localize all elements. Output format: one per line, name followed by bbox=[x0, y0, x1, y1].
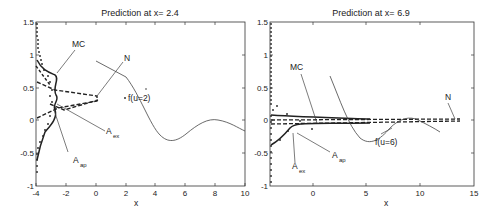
svg-text:A: A bbox=[332, 150, 338, 160]
svg-text:5: 5 bbox=[364, 189, 369, 198]
right-aap-label: A ap bbox=[332, 150, 346, 163]
left-n-label: N bbox=[124, 53, 130, 63]
svg-text:0: 0 bbox=[94, 189, 99, 198]
left-xlabel: x bbox=[134, 198, 139, 208]
svg-text:1: 1 bbox=[30, 51, 35, 60]
right-mc-dots bbox=[270, 23, 313, 183]
right-xlabel: x bbox=[384, 198, 389, 208]
right-aex-label: A ex bbox=[292, 161, 305, 174]
svg-text:A: A bbox=[106, 126, 112, 136]
svg-text:10: 10 bbox=[416, 189, 425, 198]
f-u2-curve bbox=[96, 61, 245, 141]
svg-text:0.5: 0.5 bbox=[257, 84, 269, 93]
svg-text:1.5: 1.5 bbox=[257, 18, 269, 27]
svg-text:A: A bbox=[73, 155, 79, 165]
svg-text:A: A bbox=[292, 161, 298, 171]
svg-text:8: 8 bbox=[213, 189, 218, 198]
left-mc-label: MC bbox=[72, 39, 85, 49]
left-title: Prediction at x= 2.4 bbox=[101, 8, 178, 18]
left-plot: Prediction at x= 2.4 -4 -2 0 2 4 6 8 bbox=[20, 8, 250, 208]
svg-text:ap: ap bbox=[339, 157, 346, 163]
svg-text:-1: -1 bbox=[27, 182, 35, 191]
left-aex-label: A ex bbox=[106, 126, 119, 139]
svg-text:1.5: 1.5 bbox=[23, 18, 35, 27]
figure: Prediction at x= 2.4 -4 -2 0 2 4 6 8 bbox=[0, 0, 498, 213]
svg-text:-0.5: -0.5 bbox=[254, 149, 268, 158]
svg-text:0.5: 0.5 bbox=[23, 84, 35, 93]
right-mc-label: MC bbox=[290, 62, 303, 72]
right-plot: Prediction at x= 6.9 0 5 10 15 -1 -0.5 0… bbox=[254, 8, 479, 208]
left-xticks bbox=[36, 22, 245, 186]
right-n-label: N bbox=[445, 92, 451, 102]
svg-text:4: 4 bbox=[153, 189, 158, 198]
right-title: Prediction at x= 6.9 bbox=[332, 8, 409, 18]
right-ytick-labels: -1 -0.5 0 0.5 1 1.5 bbox=[254, 18, 268, 191]
right-xtick-labels: 0 5 10 15 bbox=[311, 189, 479, 198]
svg-text:0: 0 bbox=[30, 116, 35, 125]
svg-text:0: 0 bbox=[311, 189, 316, 198]
svg-text:-0.5: -0.5 bbox=[20, 149, 34, 158]
right-annotation-leaders bbox=[293, 74, 455, 163]
left-f-label: f(u=2) bbox=[128, 93, 151, 103]
svg-text:15: 15 bbox=[470, 189, 479, 198]
svg-text:10: 10 bbox=[241, 189, 250, 198]
left-ytick-labels: -1 -0.5 0 0.5 1 1.5 bbox=[20, 18, 34, 191]
left-aap-label: A ap bbox=[73, 155, 87, 168]
left-aap-dashed bbox=[37, 82, 97, 118]
svg-text:6: 6 bbox=[183, 189, 188, 198]
left-axes-frame bbox=[36, 22, 245, 186]
right-f-label: f(u=6) bbox=[375, 137, 398, 147]
right-axes-frame bbox=[270, 22, 474, 186]
svg-text:-2: -2 bbox=[62, 189, 70, 198]
right-ticks bbox=[270, 22, 474, 186]
svg-text:ex: ex bbox=[113, 133, 119, 139]
svg-text:1: 1 bbox=[264, 51, 269, 60]
svg-text:ex: ex bbox=[299, 168, 305, 174]
svg-text:0: 0 bbox=[264, 116, 269, 125]
svg-text:-1: -1 bbox=[261, 182, 269, 191]
left-xtick-labels: -4 -2 0 2 4 6 8 10 bbox=[32, 189, 250, 198]
svg-text:ap: ap bbox=[80, 162, 87, 168]
svg-text:2: 2 bbox=[124, 189, 129, 198]
